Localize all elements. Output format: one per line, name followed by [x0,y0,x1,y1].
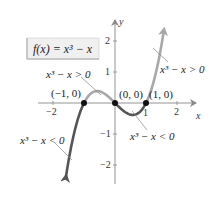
tick-y-neg2: −2 [100,159,111,170]
tick-x-neg2: −2 [46,106,57,117]
function-label: f(x) = x³ − x [33,42,93,56]
cubic-function-graph: f(x) = x³ − x x y −2 1 2 2 1 −1 −2 x³ − … [0,0,222,200]
annotation-positive-right: x³ − x > 0 [159,63,205,75]
annotation-negative-left: x³ − x < 0 [19,134,65,146]
point-label-origin: (0, 0) [119,88,143,101]
y-axis-label: y [118,16,124,27]
tick-x-2: 2 [174,106,179,117]
function-label-box: f(x) = x³ − x [27,38,99,59]
point-neg1-0 [81,100,87,106]
point-origin [112,100,118,106]
tick-y-1: 1 [105,66,110,77]
point-label-1: (1, 0) [149,88,173,101]
point-label-neg1: (−1, 0) [51,87,81,100]
tick-y-2: 2 [105,35,110,46]
annotation-negative-middle: x³ − x < 0 [129,130,175,142]
curve-negative-middle [115,103,146,115]
point-1-0 [143,100,149,106]
curve-positive-left [84,91,115,103]
annotation-positive-left: x³ − x > 0 [45,68,91,80]
tick-y-neg1: −1 [100,128,111,139]
x-axis-label: x [195,110,201,121]
curve-negative-left [66,103,84,176]
